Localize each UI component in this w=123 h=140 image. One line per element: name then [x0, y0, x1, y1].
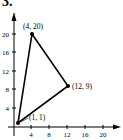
svg-text:16: 16 — [82, 131, 90, 139]
svg-text:(1, 1): (1, 1) — [29, 113, 46, 122]
svg-text:4: 4 — [6, 105, 10, 113]
point-12-9 — [66, 84, 70, 88]
x-axis-arrow-icon — [113, 125, 121, 130]
triangle — [18, 34, 68, 123]
svg-text:(4, 20): (4, 20) — [23, 22, 43, 31]
point-1-1 — [16, 121, 20, 125]
svg-text:4: 4 — [29, 131, 33, 139]
svg-text:20: 20 — [2, 31, 10, 39]
svg-text:20: 20 — [100, 131, 108, 139]
point-4-20 — [30, 32, 34, 36]
svg-text:8: 8 — [47, 131, 51, 139]
svg-text:12: 12 — [64, 131, 72, 139]
svg-text:16: 16 — [2, 49, 10, 57]
svg-text:(12, 9): (12, 9) — [72, 82, 92, 91]
svg-text:12: 12 — [2, 68, 10, 76]
svg-text:8: 8 — [6, 86, 10, 94]
triangle-diagram: y 4 8 12 16 20 4 8 12 16 20 (4, 20) (12,… — [0, 0, 123, 140]
svg-text:y: y — [12, 11, 16, 17]
